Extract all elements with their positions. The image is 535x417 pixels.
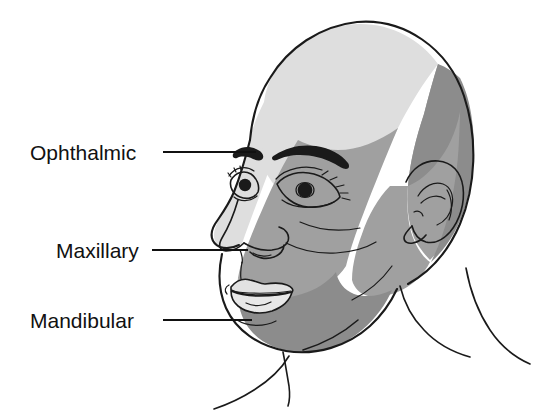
mandibular-label: Mandibular: [30, 309, 134, 332]
labels-group: Ophthalmic Maxillary Mandibular: [30, 141, 139, 332]
head-diagram: Ophthalmic Maxillary Mandibular: [0, 0, 535, 417]
ophthalmic-label: Ophthalmic: [30, 141, 136, 164]
maxillary-label: Maxillary: [56, 239, 139, 262]
shoulder-line: [466, 268, 530, 364]
right-eye-pupil: [298, 183, 313, 198]
neck-left-contour: [214, 356, 289, 409]
anatomical-figure: Ophthalmic Maxillary Mandibular: [0, 0, 535, 417]
neck-right-contour: [400, 286, 470, 357]
left-eye-pupil: [239, 179, 251, 191]
